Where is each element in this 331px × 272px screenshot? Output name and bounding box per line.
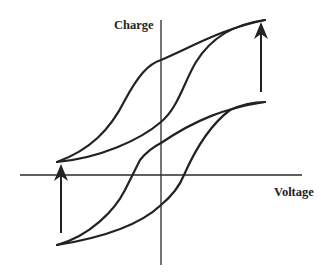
y-axis-label: Charge bbox=[114, 18, 154, 32]
hysteresis-diagram: Charge Voltage bbox=[0, 0, 331, 272]
x-axis-label: Voltage bbox=[274, 185, 314, 199]
right-arrow-up bbox=[254, 22, 268, 92]
